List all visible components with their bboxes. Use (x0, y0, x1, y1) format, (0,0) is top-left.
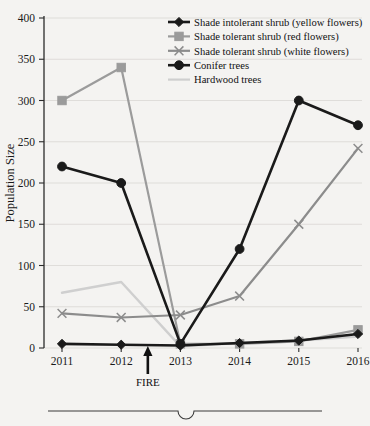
legend-entry-2[interactable]: Shade tolerant shrub (white flowers) (168, 46, 349, 58)
legend-entry-4[interactable]: Hardwood trees (168, 74, 261, 85)
fire-annotation: FIRE (136, 346, 160, 388)
y-tick-label: 0 (29, 342, 35, 354)
data-point-circle (117, 179, 126, 188)
legend-entry-label: Conifer trees (194, 60, 249, 71)
data-point-square (175, 32, 183, 40)
y-tick-label: 50 (24, 301, 36, 313)
chart-figure: 050100150200250300350400Population Size2… (0, 0, 370, 426)
series-0 (57, 329, 362, 350)
divider-rule-with-notch (48, 411, 322, 419)
fire-annotation-label: FIRE (136, 376, 160, 388)
x-tick-label: 2014 (228, 355, 251, 367)
series-3 (58, 96, 363, 348)
x-axis-ticks: 201120122013201420152016 (51, 348, 370, 367)
series-4 (62, 282, 358, 346)
y-tick-label: 300 (18, 95, 36, 107)
y-tick-label: 150 (18, 218, 36, 230)
x-tick-label: 2011 (51, 355, 74, 367)
data-point-circle (294, 96, 303, 105)
y-tick-label: 350 (18, 53, 36, 65)
legend-entry-1[interactable]: Shade tolerant shrub (red flowers) (168, 31, 339, 43)
chart-legend: Shade intolerant shrub (yellow flowers)S… (168, 17, 363, 86)
x-tick-label: 2013 (169, 355, 192, 367)
x-tick-label: 2012 (110, 355, 133, 367)
series-line (62, 282, 358, 346)
fire-arrow-head (143, 346, 152, 356)
data-point-circle (176, 339, 185, 348)
y-tick-label: 100 (18, 260, 36, 272)
data-point-circle (235, 245, 244, 254)
series-line (62, 101, 358, 344)
population-line-chart: 050100150200250300350400Population Size2… (0, 0, 370, 426)
legend-entry-label: Shade tolerant shrub (red flowers) (194, 31, 339, 43)
legend-entry-label: Hardwood trees (194, 74, 261, 85)
y-tick-label: 250 (18, 136, 36, 148)
data-point-circle (354, 121, 363, 130)
data-point-diamond (174, 17, 183, 26)
data-point-cross (354, 144, 363, 153)
legend-entry-0[interactable]: Shade intolerant shrub (yellow flowers) (168, 17, 363, 29)
legend-entry-label: Shade intolerant shrub (yellow flowers) (194, 17, 363, 29)
series-line (62, 148, 358, 317)
x-tick-label: 2016 (347, 355, 370, 367)
data-point-circle (175, 61, 184, 70)
x-tick-label: 2015 (287, 355, 310, 367)
data-point-circle (58, 162, 67, 171)
legend-entry-label: Shade tolerant shrub (white flowers) (194, 46, 349, 58)
y-tick-label: 200 (18, 177, 36, 189)
data-point-square (117, 63, 125, 71)
series-line (62, 334, 358, 346)
data-point-square (58, 96, 66, 104)
legend-entry-3[interactable]: Conifer trees (168, 60, 249, 71)
y-axis-title: Population Size (3, 143, 17, 222)
footer-divider (48, 411, 322, 419)
y-tick-label: 400 (18, 12, 36, 24)
y-gridlines: 050100150200250300350400 (18, 12, 362, 354)
data-point-diamond (57, 339, 66, 348)
